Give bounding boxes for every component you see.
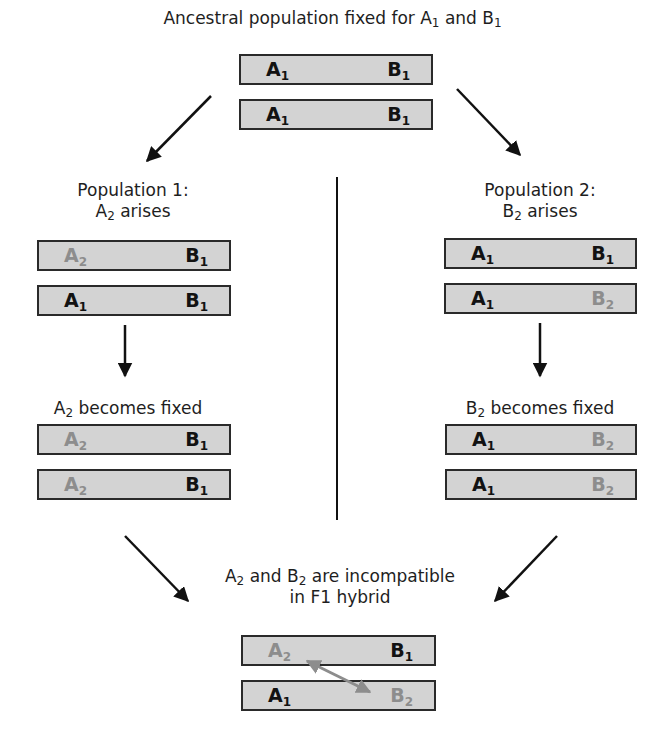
population2-subtitle: B2 arises [440,201,640,222]
allele-b: B1 [387,103,410,125]
hybrid-chromosome-1: A2 B1 [241,635,436,666]
population2-chromosome-2: A1 B2 [444,283,637,314]
allele-a: A2 [64,428,87,450]
population2-heading: Population 2: B2 arises [440,180,640,222]
allele-a: A1 [64,289,87,311]
allele-b: B1 [185,289,208,311]
hybrid-caption: A2 and B2 are incompatible in F1 hybrid [180,566,500,608]
allele-b: B2 [591,473,614,495]
population2-fixed-heading: B2 becomes fixed [435,398,645,419]
ancestral-chromosome-1: A1 B1 [239,54,433,85]
title-mid: and B [440,8,494,28]
allele-a: A2 [268,639,291,661]
arrow-population1-to-hybrid [125,536,188,601]
population2-title: Population 2: [440,180,640,201]
arrow-population2-to-hybrid [495,536,557,601]
title-text: Ancestral population fixed for A [163,8,431,28]
arrow-to-population1 [147,96,211,161]
diagram-title: Ancestral population fixed for A1 and B1 [0,8,665,29]
allele-a: A1 [268,684,291,706]
allele-a: A1 [472,473,495,495]
population1-subtitle: A2 arises [33,201,233,222]
allele-b: B1 [591,242,614,264]
population1-fixed-chromosome-2: A2 B1 [37,469,231,500]
allele-b: B1 [185,473,208,495]
arrow-to-population2 [457,89,520,155]
population2-fixed-chromosome-1: A1 B2 [445,424,637,455]
allele-b: B1 [387,58,410,80]
allele-b: B1 [390,639,413,661]
population2-fixed-chromosome-2: A1 B2 [445,469,637,500]
title-sub-a: 1 [432,16,440,30]
population1-chromosome-2: A1 B1 [37,285,231,316]
ancestral-chromosome-2: A1 B1 [239,99,433,130]
population2-chromosome-1: A1 B1 [444,238,637,269]
allele-a: A1 [471,242,494,264]
population1-heading: Population 1: A2 arises [33,180,233,222]
allele-b: B1 [185,428,208,450]
allele-a: A1 [266,103,289,125]
population1-chromosome-1: A2 B1 [37,240,231,271]
hybrid-caption-line1: A2 and B2 are incompatible [180,566,500,587]
population1-fixed-heading: A2 becomes fixed [23,398,233,419]
allele-b: B2 [390,684,413,706]
population1-title: Population 1: [33,180,233,201]
allele-b: B2 [591,287,614,309]
population1-fixed-chromosome-1: A2 B1 [37,424,231,455]
allele-b: B1 [185,244,208,266]
allele-b: B2 [591,428,614,450]
hybrid-caption-line2: in F1 hybrid [180,587,500,608]
allele-a: A1 [266,58,289,80]
allele-a: A1 [471,287,494,309]
title-sub-b: 1 [494,16,502,30]
allele-a: A1 [472,428,495,450]
allele-a: A2 [64,244,87,266]
allele-a: A2 [64,473,87,495]
hybrid-chromosome-2: A1 B2 [241,680,436,711]
